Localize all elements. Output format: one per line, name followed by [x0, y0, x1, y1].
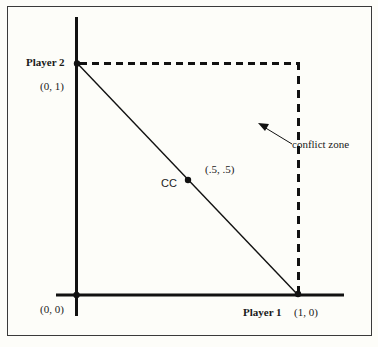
x-axis-label: Player 1: [243, 307, 282, 318]
point-cc-coord-label: (.5, .5): [205, 164, 234, 175]
payoff-diagram: [0, 0, 378, 347]
conflict-zone-arrow: [264, 127, 292, 144]
point-origin-marker: [73, 292, 79, 298]
point-cc-label: CC: [161, 178, 177, 189]
point-p2-max-label: (0, 1): [40, 81, 64, 92]
point-p1-max-label: (1, 0): [294, 307, 318, 318]
y-axis-label: Player 2: [26, 57, 65, 68]
point-p1-max-marker: [295, 291, 301, 297]
point-origin-label: (0, 0): [40, 304, 64, 315]
point-cc-marker: [185, 177, 191, 183]
conflict-zone-label: conflict zone: [292, 139, 349, 150]
point-p2-max-marker: [74, 60, 80, 66]
arrow-head-icon: [258, 123, 269, 131]
